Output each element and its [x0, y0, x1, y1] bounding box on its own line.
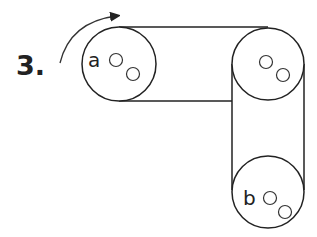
pulley-a: a	[82, 27, 156, 101]
pulley-a-label: a	[88, 48, 100, 72]
pulley-b: b	[232, 156, 304, 228]
pulley-b-label: b	[243, 186, 256, 210]
problem-number: 3.	[16, 50, 45, 81]
pulley-top-right	[232, 28, 304, 100]
pulley-diagram: 3. a b	[0, 0, 317, 237]
